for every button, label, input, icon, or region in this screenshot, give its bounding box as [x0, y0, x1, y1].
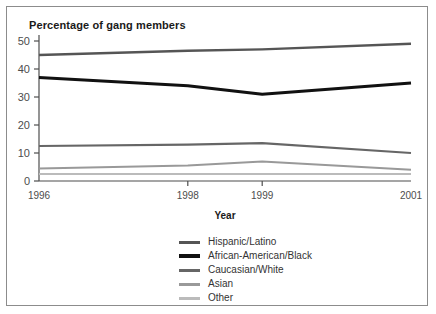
legend-item[interactable]: Asian: [179, 277, 312, 291]
legend-line-swatch: [179, 254, 200, 258]
series-line: [39, 143, 411, 153]
series-line: [39, 77, 411, 94]
x-axis-tick-label: 1998: [177, 190, 200, 201]
x-axis-title: Year: [214, 210, 235, 221]
series-line: [39, 44, 411, 55]
y-axis-tick-label: 10: [18, 147, 30, 159]
legend-item-label: Hispanic/Latino: [208, 235, 276, 249]
legend-item[interactable]: Other: [179, 291, 312, 305]
y-axis-tick-label: 40: [18, 63, 30, 75]
x-axis-tick-label: 2001: [400, 190, 423, 201]
legend-item-label: Caucasian/White: [208, 263, 284, 277]
legend-item-label: African-American/Black: [208, 249, 312, 263]
y-axis-tick-label: 30: [18, 91, 30, 103]
legend-item-label: Asian: [208, 277, 233, 291]
y-axis-tick-label: 50: [18, 35, 30, 47]
x-axis-tick-label: 1999: [251, 190, 274, 201]
y-axis-tick-label: 20: [18, 119, 30, 131]
x-axis-tick-label: 1996: [28, 190, 51, 201]
legend-item[interactable]: Caucasian/White: [179, 263, 312, 277]
legend-item[interactable]: Hispanic/Latino: [179, 235, 312, 249]
y-axis-tick-label: 0: [24, 175, 30, 187]
chart-figure: Percentage of gang members 0102030405019…: [6, 6, 428, 306]
chart-legend: Hispanic/LatinoAfrican-American/BlackCau…: [179, 235, 312, 305]
series-line: [39, 161, 411, 169]
legend-item[interactable]: African-American/Black: [179, 249, 312, 263]
legend-item-label: Other: [208, 291, 233, 305]
legend-line-swatch: [179, 283, 200, 286]
legend-line-swatch: [179, 241, 200, 244]
legend-line-swatch: [179, 269, 200, 272]
legend-line-swatch: [179, 297, 200, 300]
